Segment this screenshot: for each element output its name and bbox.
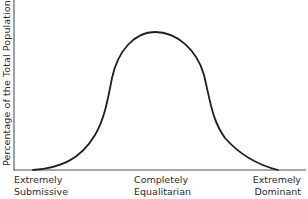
x-tick-line1: Extremely — [14, 174, 68, 186]
x-tick-line2: Equalitarian — [134, 186, 214, 198]
x-tick-line2: Submissive — [14, 186, 68, 198]
x-tick-line1: Completely — [134, 174, 214, 186]
distribution-curve — [33, 32, 278, 170]
y-axis-label: Percentage of the Total Population — [1, 2, 13, 166]
x-tick-completely-equalitarian: Completely Equalitarian — [134, 174, 214, 198]
bell-curve-chart — [0, 0, 308, 199]
x-tick-extremely-dominant: Extremely Dominant — [253, 174, 301, 198]
x-tick-line1: Extremely — [253, 174, 301, 186]
x-tick-line2: Dominant — [253, 186, 301, 198]
x-tick-extremely-submissive: Extremely Submissive — [14, 174, 68, 198]
